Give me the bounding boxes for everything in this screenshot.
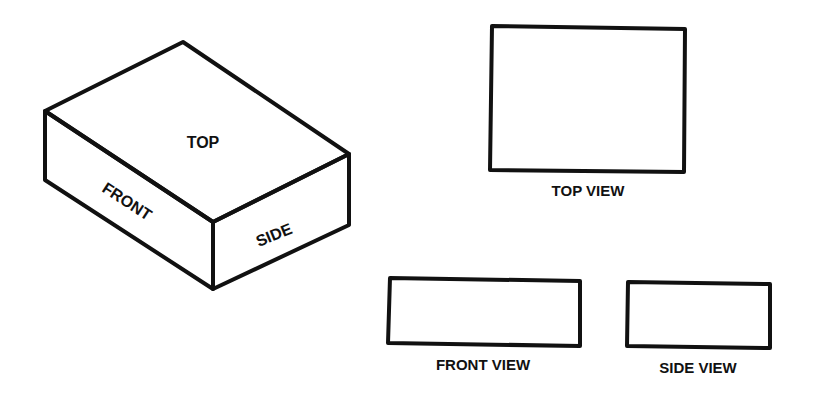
top-view-label: TOP VIEW <box>552 182 626 199</box>
label-side-face: SIDE <box>253 220 294 250</box>
box-side-face <box>213 154 349 289</box>
front-view-label: FRONT VIEW <box>436 356 531 373</box>
top-view: TOP VIEW <box>490 26 685 199</box>
label-top-face: TOP <box>187 134 220 151</box>
front-view: FRONT VIEW <box>388 278 580 373</box>
label-front-face: FRONT <box>99 179 155 223</box>
orthographic-projection-diagram: TOP FRONT SIDE TOP VIEW FRONT VIEW SIDE … <box>0 0 813 400</box>
box-top-face <box>45 42 349 222</box>
side-view-label: SIDE VIEW <box>659 359 737 376</box>
front-view-rectangle <box>388 278 580 346</box>
side-view-rectangle <box>627 282 770 348</box>
isometric-box <box>45 42 349 289</box>
top-view-rectangle <box>490 26 685 172</box>
side-view: SIDE VIEW <box>627 282 770 376</box>
